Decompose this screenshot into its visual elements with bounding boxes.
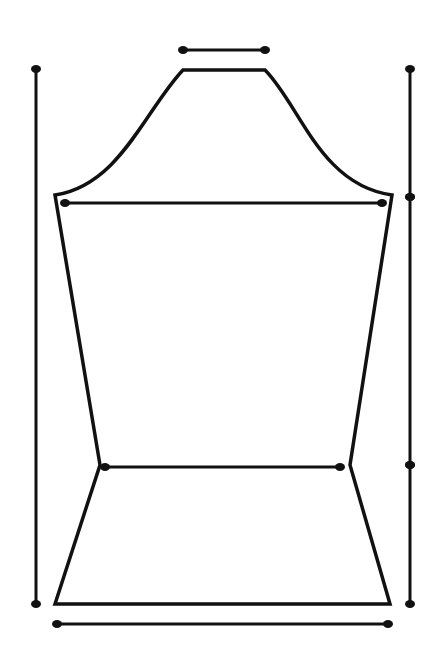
bicep-width-line xyxy=(60,199,387,207)
endpoint-dot-start xyxy=(405,461,415,469)
endpoint-dot-start xyxy=(178,46,188,54)
total-length-line xyxy=(31,65,41,608)
endpoint-dot-start xyxy=(52,620,62,628)
elbow-width-line xyxy=(100,463,345,471)
endpoint-dot-end xyxy=(383,620,393,628)
endpoint-dot-start xyxy=(60,199,70,207)
endpoint-dot-end xyxy=(335,463,345,471)
endpoint-dot-end xyxy=(377,199,387,207)
endpoint-dot-start xyxy=(31,65,41,73)
cap-height-line xyxy=(405,65,415,201)
endpoint-dot-start xyxy=(405,65,415,73)
cap-width-line xyxy=(178,46,270,54)
sleeve-pattern-diagram xyxy=(0,0,448,671)
endpoint-dot-start xyxy=(100,463,110,471)
endpoint-dot-start xyxy=(405,193,415,201)
hem-width-line xyxy=(52,620,393,628)
lower-arm-length-line xyxy=(405,461,415,608)
endpoint-dot-end xyxy=(405,600,415,608)
upper-arm-length-line xyxy=(405,193,415,469)
diagram-svg xyxy=(0,0,448,671)
endpoint-dot-end xyxy=(31,600,41,608)
sleeve-outline xyxy=(55,70,392,604)
endpoint-dot-end xyxy=(260,46,270,54)
measurement-lines xyxy=(31,46,415,628)
